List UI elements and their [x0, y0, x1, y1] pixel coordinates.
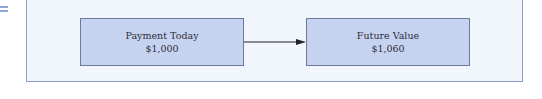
- future-value-box: Future Value $1,060: [306, 18, 470, 66]
- node-value: $1,060: [371, 42, 404, 55]
- decorative-marker: [0, 6, 8, 8]
- arrow-right-icon: [244, 37, 306, 47]
- payment-today-box: Payment Today $1,000: [80, 18, 244, 66]
- node-title: Future Value: [357, 29, 419, 42]
- decorative-marker: [0, 10, 8, 12]
- node-value: $1,000: [145, 42, 178, 55]
- node-title: Payment Today: [125, 29, 198, 42]
